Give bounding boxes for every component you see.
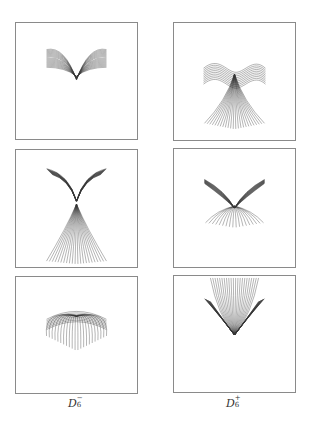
curve — [49, 171, 76, 201]
label-subscript: 6 — [77, 401, 81, 409]
curve — [77, 172, 103, 201]
curve — [235, 183, 265, 208]
curve — [49, 171, 77, 201]
curve — [50, 172, 77, 201]
curve — [47, 54, 77, 78]
curve — [50, 172, 76, 201]
curve-family-v-droop — [174, 149, 295, 267]
panel-bottom-right — [173, 275, 296, 393]
curve — [77, 171, 105, 201]
curve — [48, 170, 77, 201]
curve — [77, 171, 105, 201]
curve — [48, 170, 76, 201]
curve — [51, 174, 76, 202]
curve — [77, 54, 107, 78]
curve — [209, 206, 235, 223]
column-label-d6-plus: D+6 — [226, 397, 242, 410]
curve-family-y-fan — [16, 150, 137, 267]
curve — [47, 169, 77, 201]
curve — [77, 171, 104, 201]
curve-family-u — [174, 276, 295, 392]
panel-bottom-left — [15, 276, 138, 394]
curve — [235, 206, 261, 223]
curve — [77, 170, 106, 201]
curve-family-dome — [16, 277, 137, 393]
curve — [77, 52, 107, 79]
column-label-d6-minus: D−6 — [68, 397, 84, 410]
curve — [77, 170, 105, 201]
curve — [77, 169, 107, 201]
curve — [47, 169, 77, 201]
curve — [77, 172, 104, 201]
curve — [47, 169, 76, 201]
curve — [48, 170, 77, 201]
label-base: D — [226, 397, 235, 410]
curve — [51, 173, 77, 201]
curve — [50, 172, 77, 201]
panel-middle-left — [15, 149, 138, 268]
curve — [51, 173, 76, 201]
curve — [77, 169, 107, 201]
curve — [77, 173, 102, 201]
curve — [77, 173, 103, 201]
curve — [77, 172, 104, 201]
curve — [77, 169, 106, 201]
curve-family-wave-fan — [174, 23, 295, 140]
label-base: D — [68, 397, 77, 410]
curve — [47, 52, 77, 79]
curve-family-v — [16, 23, 137, 139]
panel-top-left — [15, 22, 138, 140]
panel-middle-right — [173, 148, 296, 268]
curve — [205, 183, 235, 208]
curve — [77, 174, 102, 202]
curve — [49, 171, 77, 201]
label-subscript: 6 — [235, 401, 239, 409]
curve — [77, 170, 106, 201]
panel-top-right — [173, 22, 296, 141]
